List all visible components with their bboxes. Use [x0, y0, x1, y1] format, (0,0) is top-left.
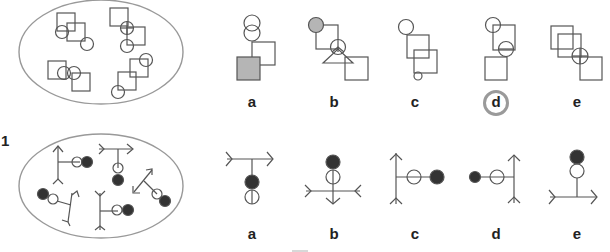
- bottom-option-a-figure[interactable]: [226, 152, 273, 204]
- bottom-option-d-label[interactable]: d: [486, 225, 506, 243]
- top-option-a-figure[interactable]: [237, 15, 275, 80]
- top-sample-ellipse: [19, 0, 183, 104]
- row-number: 1: [1, 132, 9, 149]
- top-option-b-figure[interactable]: [309, 18, 369, 81]
- puzzle-canvas: [0, 0, 610, 252]
- bottom-option-d-figure[interactable]: [470, 155, 521, 203]
- bottom-option-b-label[interactable]: b: [324, 225, 344, 243]
- top-option-c-figure[interactable]: [399, 20, 438, 81]
- top-option-c-label[interactable]: c: [405, 93, 425, 111]
- top-option-e-figure[interactable]: [551, 26, 602, 80]
- bottom-option-b-figure[interactable]: [305, 155, 361, 204]
- top-option-d-label[interactable]: d: [486, 93, 506, 111]
- bottom-option-e-label[interactable]: e: [567, 225, 587, 243]
- bottom-option-a-label[interactable]: a: [242, 225, 262, 243]
- bottom-option-e-figure[interactable]: [549, 150, 597, 204]
- bottom-sample-ellipse: [19, 134, 183, 238]
- top-option-e-label[interactable]: e: [567, 93, 587, 111]
- bottom-option-c-label[interactable]: c: [405, 225, 425, 243]
- bottom-option-c-figure[interactable]: [390, 153, 444, 204]
- top-option-a-label[interactable]: a: [242, 93, 262, 111]
- top-option-b-label[interactable]: b: [324, 93, 344, 111]
- top-option-d-figure[interactable]: [485, 18, 515, 81]
